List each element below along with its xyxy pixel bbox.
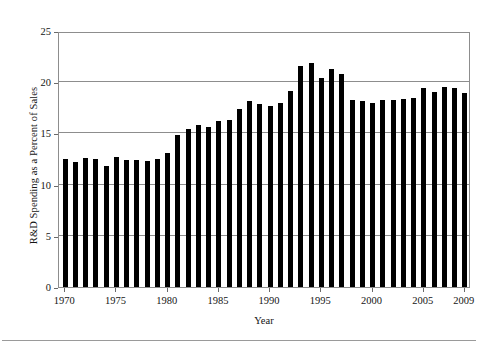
- bar: [114, 157, 119, 287]
- bar: [462, 93, 467, 287]
- x-tick-mark: [218, 288, 219, 292]
- y-tick-label: 25: [41, 25, 52, 38]
- y-tick-label: 15: [41, 127, 52, 140]
- bar: [227, 120, 232, 287]
- y-tick-label: 0: [46, 281, 51, 294]
- y-tick: 10: [0, 186, 58, 187]
- x-tick-label: 2005: [408, 294, 438, 307]
- y-axis-title: R&D Spending as a Percent of Sales: [28, 71, 39, 261]
- y-tick: 15: [0, 134, 58, 135]
- bar: [124, 160, 129, 287]
- bar: [432, 92, 437, 287]
- bar: [288, 91, 293, 287]
- bar: [329, 69, 334, 287]
- y-tick-label: 20: [41, 76, 52, 89]
- x-tick-mark: [464, 288, 465, 292]
- bar: [155, 159, 160, 287]
- x-tick-mark: [167, 288, 168, 292]
- bar: [73, 162, 78, 287]
- bar: [268, 106, 273, 287]
- y-tick: 20: [0, 83, 58, 84]
- y-tick-mark: [54, 288, 58, 289]
- x-tick-label: 2009: [449, 294, 479, 307]
- x-tick-label: 1970: [49, 294, 79, 307]
- plot-area: [58, 32, 470, 288]
- bar: [134, 160, 139, 287]
- x-tick-label: 1990: [254, 294, 284, 307]
- bar: [411, 98, 416, 287]
- x-tick-label: 2000: [357, 294, 387, 307]
- bar: [370, 103, 375, 287]
- bar: [452, 88, 457, 287]
- x-tick-mark: [372, 288, 373, 292]
- x-tick-mark: [320, 288, 321, 292]
- bar: [145, 161, 150, 287]
- x-tick-mark: [269, 288, 270, 292]
- bar: [257, 104, 262, 287]
- bar: [442, 87, 447, 287]
- y-tick: 0: [0, 288, 58, 289]
- y-tick: 5: [0, 237, 58, 238]
- y-tick: 25: [0, 32, 58, 33]
- bar: [83, 158, 88, 287]
- bar: [165, 153, 170, 287]
- y-tick-label: 10: [41, 179, 52, 192]
- bar: [298, 66, 303, 287]
- bar: [391, 100, 396, 287]
- bar: [278, 103, 283, 287]
- bottom-divider: [2, 340, 476, 341]
- bar: [380, 100, 385, 287]
- x-tick-label: 1995: [305, 294, 335, 307]
- bar: [196, 125, 201, 287]
- bar: [206, 127, 211, 287]
- bar: [350, 100, 355, 287]
- bar: [247, 101, 252, 287]
- x-tick-mark: [115, 288, 116, 292]
- y-tick-label: 5: [46, 230, 51, 243]
- x-tick-mark: [423, 288, 424, 292]
- bar: [360, 101, 365, 287]
- bar: [175, 135, 180, 287]
- bar: [63, 159, 68, 287]
- bar: [421, 88, 426, 287]
- bar: [237, 109, 242, 287]
- bar: [339, 74, 344, 287]
- bar: [93, 159, 98, 287]
- bar: [186, 129, 191, 287]
- bar: [309, 63, 314, 287]
- x-tick-label: 1975: [100, 294, 130, 307]
- bar: [104, 166, 109, 287]
- bar-series: [59, 33, 469, 287]
- bar: [216, 121, 221, 287]
- chart-figure: R&D Spending as a Percent of Sales 05101…: [0, 0, 499, 347]
- x-tick-label: 1985: [203, 294, 233, 307]
- x-tick-label: 1980: [152, 294, 182, 307]
- bar: [319, 78, 324, 287]
- x-tick-mark: [64, 288, 65, 292]
- bar: [401, 99, 406, 287]
- x-axis-title: Year: [58, 315, 470, 326]
